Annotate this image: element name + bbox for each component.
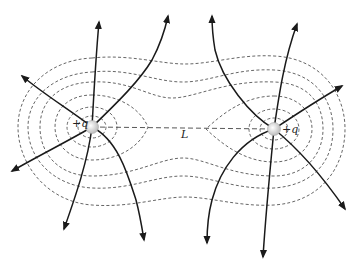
charge-left-label: +q bbox=[72, 117, 88, 130]
separation-label: L bbox=[180, 128, 188, 141]
charge-right-label: +q bbox=[282, 123, 298, 136]
field-line-right-up bbox=[274, 24, 297, 129]
field-line-left-downleft bbox=[12, 127, 92, 171]
field-line-left-up bbox=[92, 22, 99, 127]
field-line-left-down bbox=[64, 127, 92, 229]
field-line-right-downleft bbox=[207, 129, 274, 243]
field-line-right-upleft bbox=[212, 16, 274, 129]
charge-right bbox=[268, 123, 281, 136]
dipole-field-diagram: L +q +q bbox=[0, 0, 354, 265]
field-line-right-down bbox=[263, 129, 274, 257]
field-lines-right bbox=[207, 16, 345, 257]
